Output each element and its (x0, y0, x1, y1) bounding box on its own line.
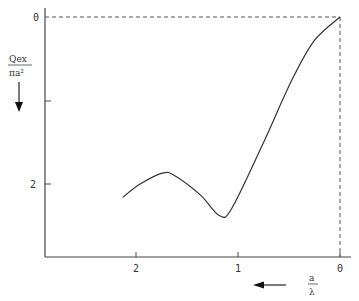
x-tick-label-2: 2 (133, 263, 139, 274)
x-label-denominator: λ (309, 287, 315, 297)
y-tick-label-0: 0 (33, 12, 39, 23)
x-tick-label-0: 0 (337, 263, 343, 274)
data-curve (123, 17, 340, 217)
arrow-left-icon (253, 282, 264, 289)
chart: 0 2 2 1 0 Qex πa² a λ (0, 0, 359, 301)
y-label-denominator: πa² (9, 68, 24, 78)
x-label-numerator: a (309, 273, 315, 283)
y-tick-label-2: 2 (30, 179, 36, 190)
arrow-down-icon (15, 102, 23, 112)
y-label-numerator: Qex (9, 54, 27, 64)
x-tick-label-1: 1 (235, 263, 241, 274)
